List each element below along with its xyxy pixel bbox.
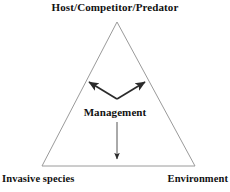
- diagram-graphics: [0, 0, 230, 192]
- node-label-management: Management: [0, 107, 230, 118]
- node-label-environment: Environment: [168, 174, 228, 185]
- arrow-up-left: [89, 82, 117, 99]
- triangle-outline: [42, 22, 195, 166]
- node-label-host-competitor-predator: Host/Competitor/Predator: [0, 2, 230, 13]
- diagram-canvas: Host/Competitor/Predator Management Inva…: [0, 0, 230, 192]
- arrow-up-right: [117, 82, 145, 99]
- node-label-invasive-species: Invasive species: [2, 174, 74, 185]
